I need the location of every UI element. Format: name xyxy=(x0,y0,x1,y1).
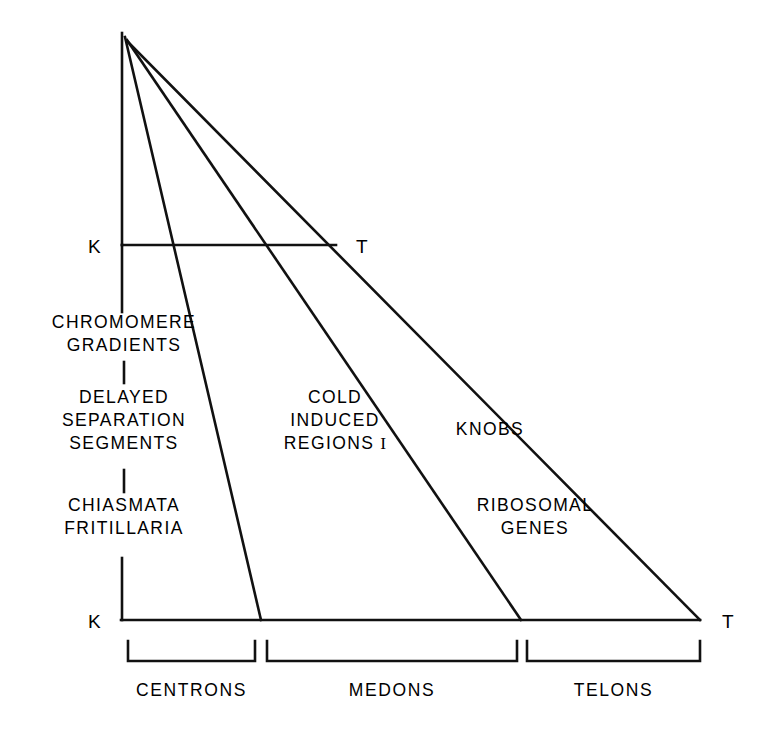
chromomere-line-2: GRADIENTS xyxy=(0,334,248,357)
cold-roman-numeral: I xyxy=(380,433,386,453)
label-lower-t: T xyxy=(722,609,734,634)
diagram-canvas: K T K T CHROMOMERE GRADIENTS DELAYED SEP… xyxy=(0,0,769,733)
cold-line-1: COLD xyxy=(255,386,415,409)
cold-regions-word: REGIONS xyxy=(284,433,375,453)
bracket-label-medons: MEDONS xyxy=(267,680,517,701)
delayed-line-1: DELAYED xyxy=(0,386,248,409)
chromomere-line-1: CHROMOMERE xyxy=(0,311,248,334)
annotation-cold-induced-regions: COLD INDUCED REGIONSI xyxy=(255,386,415,454)
cold-line-3: REGIONSI xyxy=(255,432,415,455)
annotation-chromomere-gradients: CHROMOMERE GRADIENTS xyxy=(0,311,248,357)
ribosomal-line-2: GENES xyxy=(455,517,615,540)
chiasmata-line-2: FRITILLARIA xyxy=(0,517,248,540)
bracket-medons xyxy=(267,641,517,661)
bracket-label-centrons: CENTRONS xyxy=(128,680,255,701)
annotation-chiasmata-fritillaria: CHIASMATA FRITILLARIA xyxy=(0,494,248,540)
delayed-line-3: SEGMENTS xyxy=(0,432,248,455)
cold-line-2: INDUCED xyxy=(255,409,415,432)
annotation-knobs: KNOBS xyxy=(435,418,545,441)
bracket-label-telons: TELONS xyxy=(527,680,700,701)
knobs-line-1: KNOBS xyxy=(435,418,545,441)
annotation-ribosomal-genes: RIBOSOMAL GENES xyxy=(455,494,615,540)
label-upper-k: K xyxy=(88,234,101,259)
diagram-lines xyxy=(0,0,769,733)
annotation-delayed-separation-segments: DELAYED SEPARATION SEGMENTS xyxy=(0,386,248,454)
label-upper-t: T xyxy=(356,234,368,259)
ribosomal-line-1: RIBOSOMAL xyxy=(455,494,615,517)
chiasmata-line-1: CHIASMATA xyxy=(0,494,248,517)
bracket-centrons xyxy=(128,641,255,661)
bracket-telons xyxy=(527,641,700,661)
label-lower-k: K xyxy=(88,609,101,634)
delayed-line-2: SEPARATION xyxy=(0,409,248,432)
